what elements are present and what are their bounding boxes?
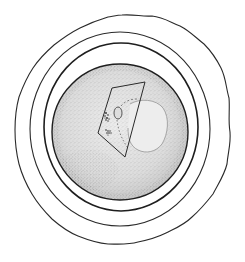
small-oval [114, 107, 122, 119]
stippled-sphere [52, 64, 188, 200]
egg-cell-illustration [0, 0, 245, 262]
illustration-canvas: Illustration of an egg cell with concent… [0, 0, 245, 262]
